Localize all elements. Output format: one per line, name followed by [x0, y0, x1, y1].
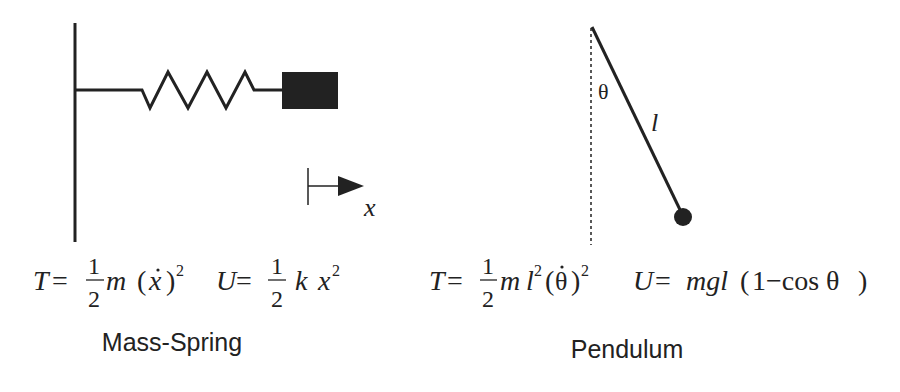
eq-symbol: ) — [166, 265, 175, 296]
mass-block — [282, 72, 338, 109]
fraction-numerator: 1 — [88, 253, 100, 279]
exponent: 2 — [581, 262, 589, 279]
eq-symbol: U — [633, 265, 655, 296]
eq-symbol: k — [295, 265, 308, 296]
displacement-arrowhead — [338, 176, 364, 196]
eq-symbol: x — [148, 265, 162, 296]
fraction-denominator: 2 — [88, 286, 100, 312]
mass-spring-figure — [75, 23, 364, 242]
exponent: 2 — [176, 262, 184, 279]
eq-symbol: ) — [858, 265, 867, 296]
pendulum-bob — [674, 208, 692, 226]
eq-symbol: = — [236, 265, 252, 296]
pendulum-potential-energy: U = mgl ( 1−cos θ ) — [633, 265, 867, 296]
dot-accent — [560, 265, 563, 268]
eq-symbol: T — [429, 265, 447, 296]
eq-symbol: mgl — [686, 265, 728, 296]
eq-symbol: l — [526, 265, 534, 296]
eq-symbol: ( — [740, 265, 749, 296]
pendulum-kinetic-energy: T = 1 2 m l 2 ( θ ) 2 — [429, 253, 589, 312]
fraction-numerator: 1 — [482, 253, 494, 279]
length-label: l — [651, 108, 658, 137]
eq-symbol: T — [33, 265, 51, 296]
mass-spring-title: Mass-Spring — [102, 328, 242, 356]
eq-symbol: x — [317, 265, 331, 296]
eq-symbol: ( — [137, 265, 146, 296]
eq-symbol: ) — [571, 265, 580, 296]
fraction-numerator: 1 — [271, 253, 283, 279]
eq-symbol: = — [52, 265, 68, 296]
pendulum-figure — [591, 27, 692, 245]
exponent: 2 — [332, 262, 340, 279]
dot-accent — [156, 268, 159, 271]
eq-symbol: m — [106, 265, 126, 296]
eq-symbol: = — [655, 265, 671, 296]
mass-spring-kinetic-energy: T = 1 2 m ( x ) 2 — [33, 253, 184, 312]
eq-symbol: U — [216, 265, 238, 296]
eq-symbol: m — [500, 265, 520, 296]
exponent: 2 — [534, 262, 542, 279]
pendulum-title: Pendulum — [571, 335, 684, 363]
fraction-denominator: 2 — [482, 286, 494, 312]
fraction-denominator: 2 — [271, 286, 283, 312]
eq-symbol: = — [447, 265, 463, 296]
eq-symbol: 1−cos θ — [752, 265, 840, 296]
pendulum-rod — [592, 27, 683, 216]
angle-label: θ — [598, 79, 609, 104]
mass-spring-potential-energy: U = 1 2 k x 2 — [216, 253, 340, 312]
eq-symbol: θ — [555, 267, 567, 296]
eq-symbol: ( — [545, 265, 554, 296]
diagram-canvas: x T = 1 2 m ( x ) 2 U = 1 2 k x 2 Mass-S… — [0, 0, 900, 392]
spring — [75, 72, 282, 108]
x-axis-label: x — [363, 193, 376, 222]
